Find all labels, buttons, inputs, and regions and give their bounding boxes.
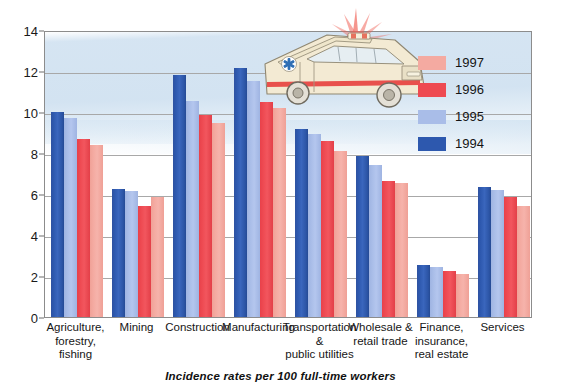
y-axis-tick-label: 10: [0, 107, 38, 120]
bar: [112, 189, 125, 317]
y-axis-tick-label: 12: [0, 66, 38, 79]
bar: [77, 139, 90, 317]
bar-group: [173, 32, 225, 317]
bar: [395, 183, 408, 317]
bar: [308, 134, 321, 317]
y-axis-tick-label: 14: [0, 25, 38, 38]
bar: [260, 102, 273, 317]
bar: [247, 81, 260, 317]
bar: [321, 141, 334, 317]
legend: 1997199619951994: [418, 52, 513, 160]
bar: [64, 118, 77, 317]
bar-group: [51, 32, 103, 317]
legend-swatch: [418, 137, 446, 151]
legend-item[interactable]: 1994: [418, 133, 513, 154]
bar: [478, 187, 491, 317]
bar: [173, 75, 186, 317]
bar: [125, 191, 138, 317]
bar-group: [295, 32, 347, 317]
bar: [138, 206, 151, 317]
bar-group: [112, 32, 164, 317]
bar: [273, 108, 286, 317]
x-axis-category-label: Services: [455, 321, 551, 335]
chart-caption: Incidence rates per 100 full-time worker…: [0, 370, 561, 382]
bar-group: [356, 32, 408, 317]
bar: [334, 151, 347, 317]
legend-label: 1994: [455, 137, 484, 150]
bar: [417, 265, 430, 317]
legend-item[interactable]: 1996: [418, 79, 513, 100]
bar: [456, 274, 469, 317]
bar: [491, 190, 504, 317]
bar: [186, 101, 199, 317]
bar: [369, 165, 382, 317]
bar: [295, 129, 308, 317]
bar: [443, 271, 456, 317]
legend-swatch: [418, 110, 446, 124]
bar: [151, 197, 164, 317]
legend-item[interactable]: 1995: [418, 106, 513, 127]
legend-item[interactable]: 1997: [418, 52, 513, 73]
bar: [234, 68, 247, 317]
bar: [382, 181, 395, 317]
bar: [430, 267, 443, 317]
legend-swatch: [418, 56, 446, 70]
bar-group: [234, 32, 286, 317]
y-axis-tick-label: 6: [0, 189, 38, 202]
legend-label: 1995: [455, 110, 484, 123]
bar: [51, 112, 64, 317]
chart-figure: 02468101214: [0, 0, 561, 391]
bar: [504, 197, 517, 317]
y-axis-tick-label: 4: [0, 230, 38, 243]
legend-label: 1997: [455, 56, 484, 69]
bar: [212, 123, 225, 317]
legend-swatch: [418, 83, 446, 97]
bar: [356, 156, 369, 317]
bar: [90, 145, 103, 317]
bar: [199, 115, 212, 317]
legend-label: 1996: [455, 83, 484, 96]
y-axis-tick-label: 8: [0, 148, 38, 161]
y-axis-tick-label: 2: [0, 271, 38, 284]
bar: [517, 206, 530, 317]
